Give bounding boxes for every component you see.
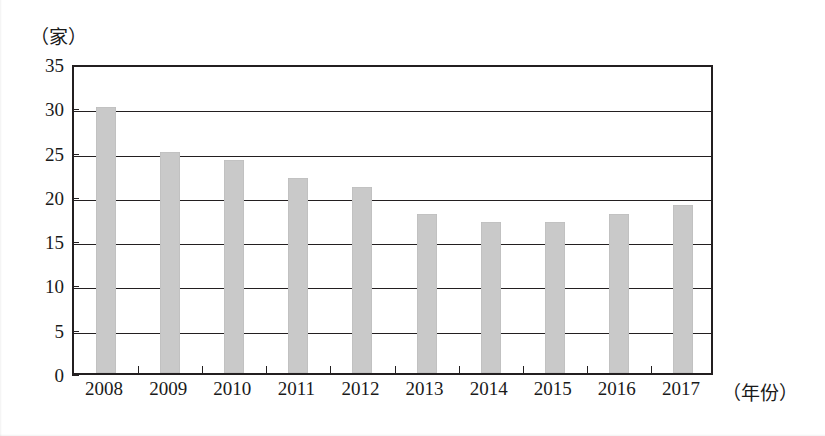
- y-axis-tick-label: 5: [6, 321, 64, 340]
- x-axis-tick-label: 2011: [278, 378, 315, 400]
- x-axis-tick-labels: 2008200920102011201220132014201520162017: [72, 378, 713, 408]
- x-axis-tick-mark: [395, 366, 396, 373]
- y-axis-tick-label: 10: [6, 277, 64, 296]
- x-axis-tick-mark: [459, 366, 460, 373]
- y-axis-tick-mark: [72, 154, 79, 155]
- bar: [417, 214, 437, 373]
- bar: [160, 152, 180, 373]
- bar: [224, 160, 244, 373]
- y-axis-tick-label: 15: [6, 233, 64, 252]
- y-axis-tick-label: 0: [6, 366, 64, 385]
- x-axis-unit-label: （年份）: [722, 378, 798, 405]
- y-axis-unit-label: （家）: [30, 22, 87, 49]
- y-axis-tick-mark: [72, 331, 79, 332]
- x-axis-tick-mark: [651, 366, 652, 373]
- x-axis-tick-label: 2015: [534, 378, 572, 400]
- x-axis-tick-label: 2013: [406, 378, 444, 400]
- y-axis-tick-label: 30: [6, 100, 64, 119]
- y-axis-tick-mark: [72, 198, 79, 199]
- bar: [673, 205, 693, 373]
- x-axis-tick-mark: [266, 366, 267, 373]
- bar: [481, 222, 501, 373]
- bar: [545, 222, 565, 373]
- x-axis-tick-mark: [587, 366, 588, 373]
- bar: [609, 214, 629, 373]
- y-axis-tick-mark: [72, 286, 79, 287]
- bar: [96, 107, 116, 373]
- x-axis-tick-label: 2012: [341, 378, 379, 400]
- x-axis-tick-label: 2014: [470, 378, 508, 400]
- y-axis-tick-label: 25: [6, 144, 64, 163]
- bar: [288, 178, 308, 373]
- plot-area: [72, 65, 713, 375]
- x-axis-tick-label: 2010: [213, 378, 251, 400]
- x-axis-tick-mark: [330, 366, 331, 373]
- x-axis-tick-mark: [138, 366, 139, 373]
- bar-chart-figure: （家） 05101520253035 200820092010201120122…: [0, 0, 825, 436]
- y-axis-tick-label: 35: [6, 56, 64, 75]
- y-axis-tick-labels: 05101520253035: [0, 65, 64, 375]
- x-axis-tick-mark: [202, 366, 203, 373]
- x-axis-tick-label: 2008: [85, 378, 123, 400]
- x-axis-tick-label: 2016: [598, 378, 636, 400]
- bar: [352, 187, 372, 373]
- y-axis-tick-mark: [72, 109, 79, 110]
- x-axis-tick-label: 2009: [149, 378, 187, 400]
- x-axis-tick-label: 2017: [662, 378, 700, 400]
- x-axis-tick-mark: [523, 366, 524, 373]
- y-axis-tick-mark: [72, 375, 79, 376]
- y-axis-tick-mark: [72, 242, 79, 243]
- gridline: [74, 111, 711, 112]
- y-axis-tick-label: 20: [6, 188, 64, 207]
